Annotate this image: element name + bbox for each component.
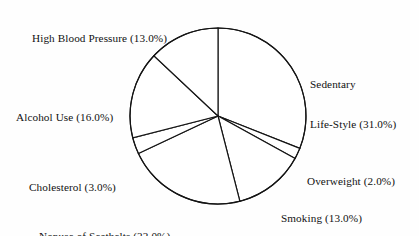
slice-label-text: Cholesterol (3.0%) <box>29 181 116 194</box>
slice-label-text: Nonuse of Seatbelts (22.0%) <box>39 230 170 236</box>
pie-chart-figure: High Blood Pressure (13.0%) Sedentary Li… <box>0 0 419 236</box>
slice-label-text: High Blood Pressure (13.0%) <box>32 32 167 45</box>
slice-label-alcohol-use: Alcohol Use (16.0%) <box>16 85 113 151</box>
slice-label-text-line2: Life-Style (31.0%) <box>310 118 396 131</box>
slice-label-high-blood-pressure: High Blood Pressure (13.0%) <box>32 6 167 72</box>
slice-label-smoking: Smoking (13.0%) <box>281 186 362 236</box>
slice-label-nonuse-of-seatbelts: Nonuse of Seatbelts (22.0%) <box>39 204 170 236</box>
slice-label-text-line1: Sedentary <box>310 78 396 91</box>
slice-label-text: Smoking (13.0%) <box>281 212 362 225</box>
slice-label-sedentary-life-style: Sedentary Life-Style (31.0%) <box>310 52 396 158</box>
slice-label-text: Alcohol Use (16.0%) <box>16 111 113 124</box>
